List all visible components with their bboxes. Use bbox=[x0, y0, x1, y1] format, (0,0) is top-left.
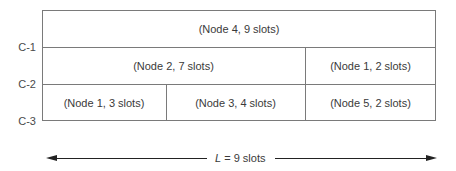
cell-node3-4slots: (Node 3, 4 slots) bbox=[166, 84, 305, 121]
boundary-label-c1: C-1 bbox=[6, 41, 36, 53]
cell-node1-2slots: (Node 1, 2 slots) bbox=[305, 47, 436, 84]
boundary-label-c2: C-2 bbox=[6, 78, 36, 90]
boundary-label-c3: C-3 bbox=[6, 115, 36, 127]
cell-node2-7slots: (Node 2, 7 slots) bbox=[42, 47, 305, 84]
arrow-right-icon bbox=[426, 155, 437, 161]
arrow-line-left bbox=[55, 158, 207, 159]
length-value: = 9 slots bbox=[221, 152, 265, 164]
length-label: L = 9 slots bbox=[215, 152, 265, 164]
arrow-line-right bbox=[275, 158, 428, 159]
cell-node5-2slots: (Node 5, 2 slots) bbox=[305, 84, 436, 121]
cell-node1-3slots: (Node 1, 3 slots) bbox=[42, 84, 166, 121]
cell-node4-9slots: (Node 4, 9 slots) bbox=[42, 10, 436, 47]
